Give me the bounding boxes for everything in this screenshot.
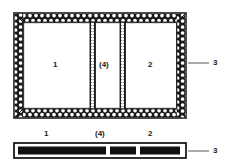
- top-wall: [15, 14, 185, 22]
- plan-label-compartment-4: (4): [99, 61, 109, 69]
- divider-wall-left: [90, 22, 95, 109]
- section-segment-4: [110, 147, 136, 155]
- section-segment-2: [140, 147, 180, 155]
- divider-wall-right: [120, 22, 125, 109]
- section-label-segment-1: 1: [44, 130, 48, 138]
- plan-label-wall-callout-3: 3: [213, 59, 217, 67]
- bottom-wall: [15, 109, 185, 117]
- plan-label-compartment-1: 1: [53, 61, 57, 69]
- section-label-segment-2: 2: [148, 130, 152, 138]
- section-segment-1: [18, 147, 106, 155]
- plan-label-compartment-2: 2: [148, 61, 152, 69]
- section-view-group: [14, 143, 209, 158]
- figure-canvas: [0, 0, 231, 166]
- right-wall: [177, 14, 185, 117]
- plan-view-group: [14, 13, 209, 118]
- technical-figure: 1 (4) 2 3 1 (4) 2 3: [0, 0, 231, 166]
- section-label-wall-callout-3: 3: [213, 147, 217, 155]
- section-label-segment-4: (4): [95, 130, 105, 138]
- left-wall: [15, 14, 23, 117]
